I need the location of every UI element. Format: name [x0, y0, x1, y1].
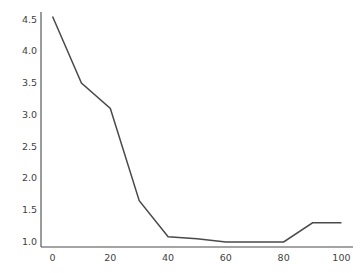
- x-tick-label: 100: [332, 252, 350, 263]
- x-tick-label: 80: [278, 252, 290, 263]
- x-tick-label: 60: [220, 252, 232, 263]
- x-axis-tick-labels: 020406080100: [0, 0, 361, 273]
- x-tick-label: 40: [162, 252, 174, 263]
- x-tick-label: 20: [104, 252, 116, 263]
- x-tick-label: 0: [50, 252, 56, 263]
- chart-figure: 1.01.52.02.53.03.54.04.5 020406080100: [0, 0, 361, 273]
